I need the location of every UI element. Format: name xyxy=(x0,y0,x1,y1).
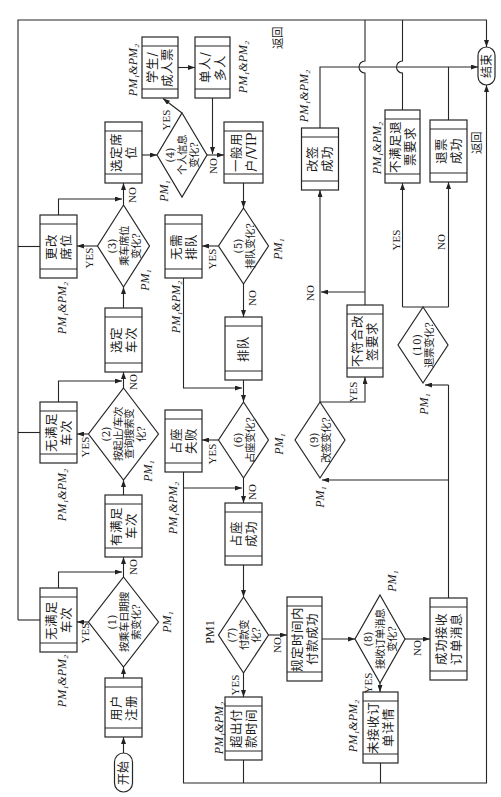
process-label-line: 成人票 xyxy=(160,48,175,87)
decision-label-line: 个人信息 xyxy=(176,135,188,175)
decision-label-line: (5) xyxy=(232,239,244,254)
return-label-top: 返回 xyxy=(271,27,285,49)
flowchart-canvas: 开始 结束 用户 注册 无满足 车次 PM₁&PM₂ 有满足 车次 无满足 车次… xyxy=(0,0,501,797)
process-label-line: 成功 xyxy=(320,146,335,172)
process-refund-rejected: 不满足退 票要求 PM₁&PM₂ xyxy=(370,110,420,183)
process-label-line: 签要求 xyxy=(365,322,380,361)
yes-label: YES xyxy=(206,249,218,270)
arrow-no-train-date-merge xyxy=(59,572,123,588)
ticketing-flowchart: 开始 结束 用户 注册 无满足 车次 PM₁&PM₂ 有满足 车次 无满足 车次… xyxy=(0,0,501,797)
end-label: 结束 xyxy=(480,54,494,78)
decision-label-line: 占座变化? xyxy=(244,417,256,463)
yes-label: YES xyxy=(83,248,95,269)
process-label-line: 车次 xyxy=(59,420,74,446)
pm-role-label: PM₁&PM₂ xyxy=(126,44,140,97)
process-train-available: 有满足 车次 xyxy=(105,495,142,557)
process-order-message-received: 成功接收 订单消息 xyxy=(430,598,467,680)
process-change-rejected: 不符合改 签要求 xyxy=(347,305,383,377)
no-label: NO xyxy=(246,290,258,306)
line-refund-rejected-return xyxy=(397,20,403,110)
no-label: NO xyxy=(271,637,283,653)
decision-8-order-message: (8) 接收订单消息 变化? PM₁ YES NO xyxy=(355,570,423,693)
process-seat-hold-success: 占座 成功 xyxy=(225,503,262,565)
pm-role-label: PM₁ xyxy=(271,238,285,261)
process-change-seat: 更改 席位 PM₁&PM₂ xyxy=(40,215,77,335)
process-label-line: 选定 xyxy=(109,327,124,353)
process-label-line: 多人 xyxy=(213,55,228,81)
decision-label-line: 乘车席位 xyxy=(118,225,130,266)
process-label-line: 退票 xyxy=(434,138,449,164)
decision-5-queue-change: (5) 排队变化? PM₁ YES NO xyxy=(206,208,285,306)
process-label-line: 失败 xyxy=(184,428,199,454)
process-label-line: 有满足 xyxy=(109,507,124,546)
pm-role-label: PM₁&PM₂ xyxy=(169,281,183,334)
process-label-line: 订单消息 xyxy=(449,613,464,665)
decision-label-line: 变化? xyxy=(188,142,200,168)
decision-label-line: (1) xyxy=(106,615,118,630)
decision-2-route-search: (2) 按起止/车次 查询搜索变 化? PM₁ YES NO xyxy=(79,374,159,483)
decision-4-personal-info: (4) 个人信息 变化? PM₁ YES NO xyxy=(157,110,219,203)
decision-label-line: 按乘车日期搜 xyxy=(118,591,130,652)
process-label-line: 成功接收 xyxy=(434,613,449,665)
decision-label-line: (2) xyxy=(100,427,112,442)
yes-label: YES xyxy=(206,444,218,465)
return-label-right: 返回 xyxy=(470,132,484,154)
no-label: NO xyxy=(127,559,139,575)
process-label-line: 单详情 xyxy=(381,708,396,747)
decision-label-line: (6) xyxy=(232,433,244,448)
process-label-line: 付款成功 xyxy=(305,613,320,665)
process-label-line: 排队 xyxy=(184,234,199,260)
pm-role-label: PM₁ xyxy=(313,486,327,509)
yes-label: YES xyxy=(229,675,241,696)
yes-label: YES xyxy=(79,623,91,644)
process-label-line: 不满足退 xyxy=(388,121,403,173)
pm-role-label: PM₁&PM₂ xyxy=(297,70,311,123)
pm-role-label: PM₁&PM₂ xyxy=(55,282,69,335)
no-label: NO xyxy=(435,234,447,250)
start-label: 开始 xyxy=(117,761,131,785)
process-label-line: 车次 xyxy=(124,327,139,353)
pm-role-label: PM₁&PM₂ xyxy=(212,702,226,755)
arrow-no-train-route-merge xyxy=(59,381,123,402)
process-label-line: 规定时间内 xyxy=(290,607,305,672)
process-select-seat: 选定席 位 xyxy=(105,122,142,183)
process-label-line: 无满足 xyxy=(44,413,59,452)
line-change-rejected-return xyxy=(359,20,365,305)
decision-label-line: 变化? xyxy=(130,233,142,259)
decision-6-seat-hold-change: (6) 占座变化? PM₁ YES NO xyxy=(206,402,286,500)
decision-10-refund-change: (10) 退票变化? PM₁ YES NO xyxy=(390,230,448,416)
decision-1-date-search: (1) 按乘车日期搜 索变化? PM₁ YES NO xyxy=(79,559,174,667)
process-label-line: 不符合改 xyxy=(350,315,365,367)
arrow-change-seat-merge xyxy=(59,199,123,215)
decision-label-line: 改签变化? xyxy=(320,417,332,463)
process-label-line: 席位 xyxy=(59,234,74,260)
pm-role-label: PM₁&PM₂ xyxy=(370,122,384,175)
yes-label: YES xyxy=(390,230,402,251)
yes-label: YES xyxy=(160,110,172,131)
process-label-line: 无满足 xyxy=(44,601,59,640)
process-label-line: 户/VIP xyxy=(244,133,259,173)
no-label: NO xyxy=(304,285,316,301)
process-label-line: 排队 xyxy=(236,336,251,362)
process-label-line: 车次 xyxy=(59,607,74,633)
yes-label: YES xyxy=(79,437,91,458)
process-select-train: 选定 车次 xyxy=(105,308,142,372)
process-label-line: 款时间 xyxy=(244,709,259,748)
process-label-line: 学生/ xyxy=(145,52,160,83)
process-label-line: 无需 xyxy=(169,234,184,260)
pm-role-label: PM1 xyxy=(203,620,217,643)
process-label-line: 成功 xyxy=(449,138,464,164)
process-label-line: 占座 xyxy=(169,428,184,454)
decision-label-line: 付款变 xyxy=(238,619,250,650)
decision-label-line: (7) xyxy=(226,628,238,643)
no-label: NO xyxy=(207,158,219,174)
decision-label-line: 变化? xyxy=(386,626,398,652)
decision-label-line: 查询搜索变 xyxy=(123,408,135,459)
process-label-line: 未接收订 xyxy=(366,702,381,754)
process-label-line: 超出付 xyxy=(229,709,244,748)
process-no-train-by-route: 无满足 车次 PM₁&PM₂ xyxy=(40,402,77,522)
pm-role-label: PM₁ xyxy=(160,611,174,634)
decision-label-line: (8) xyxy=(362,632,374,647)
pm-role-label: PM₁ xyxy=(417,393,431,416)
decision-label-line: 接收订单消息 xyxy=(374,609,386,669)
